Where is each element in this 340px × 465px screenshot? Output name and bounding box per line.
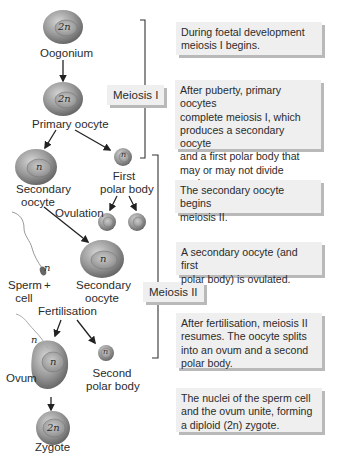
second-polar-body-label-line1: Second	[86, 367, 138, 380]
note-1-line-2: meiosis I begins.	[181, 39, 316, 52]
meiosis-1-label: Meiosis I	[107, 85, 164, 105]
note-5-line-3: into an ovum and a second	[181, 344, 316, 357]
plus-sign: +	[44, 279, 51, 292]
second-polar-body-label: Second polar body	[86, 367, 138, 393]
note-5-line-4: polar body.	[181, 357, 316, 370]
secondary-oocyte-label-line2: oocyte	[16, 196, 60, 209]
secondary-oocyte-label: Secondary oocyte	[16, 183, 60, 209]
note-box-5: After fertilisation, meiosis II resumes.…	[176, 313, 322, 368]
note-4-line-1: A secondary oocyte (and first	[181, 246, 316, 273]
primary-oocyte-label: Primary oocyte	[32, 118, 109, 131]
sperm-cell-icon	[12, 212, 47, 276]
primary-oocyte-ploidy: 2n	[58, 93, 71, 104]
first-polar-body-ploidy: n	[121, 150, 126, 159]
sperm-cell-label-line2: cell	[8, 292, 40, 305]
note-2-line-4: and a first polar body that	[180, 150, 315, 163]
note-5-line-2: resumes. The oocyte splits	[181, 330, 316, 343]
note-box-2: After puberty, primary oocytes complete …	[175, 80, 321, 149]
ovum-sperm-ploidy: n	[31, 334, 37, 345]
note-box-6: The nuclei of the sperm cell and the ovu…	[176, 388, 322, 432]
arrow-fertilisation-to-ovum	[55, 320, 61, 336]
ovum-ploidy: n	[50, 356, 56, 367]
note-3-line-2: meiosis II.	[180, 211, 315, 224]
first-polar-body-label-line2: polar body	[100, 183, 148, 196]
note-1-line-1: During foetal development	[181, 26, 316, 39]
arrow-polar-split-right	[129, 196, 136, 210]
ovum-label: Ovum	[6, 372, 37, 385]
arrow-primary-to-polar	[75, 130, 110, 150]
oogonium-ploidy: 2n	[58, 21, 71, 32]
second-polar-body-ploidy: n	[103, 347, 108, 356]
note-6-line-3: a diploid (2n) zygote.	[181, 419, 316, 432]
fertilisation-label: Fertilisation	[38, 305, 97, 318]
note-2-line-2: complete meiosis I, which	[180, 111, 315, 124]
first-polar-body-label: First polar body	[100, 170, 148, 196]
note-5-line-1: After fertilisation, meiosis II	[181, 317, 316, 330]
note-box-4: A secondary oocyte (and first polar body…	[176, 242, 322, 275]
note-3-line-1: The secondary oocyte begins	[180, 184, 315, 211]
sperm-cell-label-line1: Sperm	[8, 279, 40, 292]
note-box-3: The secondary oocyte begins meiosis II.	[175, 180, 321, 213]
secondary-oocyte-ovulated-label-line2: oocyte	[76, 292, 128, 305]
note-2-line-3: produces a secondary oocyte	[180, 124, 315, 151]
zygote-label: Zygote	[35, 441, 70, 454]
zygote-ploidy: 2n	[47, 422, 60, 433]
note-6-line-2: and the ovum unite, forming	[181, 405, 316, 418]
secondary-oocyte-ovulated-label: Secondary oocyte	[76, 279, 128, 305]
note-2-line-1: After puberty, primary oocytes	[180, 84, 315, 111]
secondary-oocyte-ploidy: n	[36, 161, 42, 172]
note-box-1: During foetal development meiosis I begi…	[176, 22, 322, 55]
sperm-ploidy: n	[44, 262, 50, 273]
polar-body-right-icon	[128, 213, 146, 231]
arrow-primary-to-secondary	[45, 130, 56, 148]
arrow-fertilisation-to-polar	[77, 320, 95, 343]
note-6-line-1: The nuclei of the sperm cell	[181, 392, 316, 405]
first-polar-body-label-line1: First	[100, 170, 148, 183]
secondary-oocyte-ovulated-ploidy: n	[100, 253, 106, 264]
ovulation-label: Ovulation	[55, 207, 104, 220]
secondary-oocyte-ovulated-label-line1: Secondary	[76, 279, 128, 292]
note-4-line-2: polar body) is ovulated.	[181, 273, 316, 286]
arrow-polar-split-left	[110, 196, 117, 210]
secondary-oocyte-label-line1: Secondary	[16, 183, 60, 196]
oogonium-label: Oogonium	[40, 47, 93, 60]
second-polar-body-label-line2: polar body	[86, 380, 138, 393]
sperm-cell-label: Sperm cell	[8, 279, 40, 305]
